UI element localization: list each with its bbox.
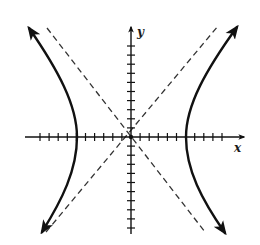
hyperbola bbox=[29, 27, 237, 233]
origin-point bbox=[129, 135, 133, 139]
y-axis: y bbox=[127, 25, 145, 234]
x-axis: x bbox=[25, 133, 244, 155]
hyperbola-left-branch bbox=[29, 28, 77, 232]
hyperbola-graph: x y bbox=[0, 0, 260, 245]
y-axis-label: y bbox=[136, 25, 145, 39]
asymptote-negative-slope bbox=[47, 28, 205, 232]
hyperbola-right-branch bbox=[186, 27, 237, 233]
x-axis-label: x bbox=[233, 141, 242, 155]
